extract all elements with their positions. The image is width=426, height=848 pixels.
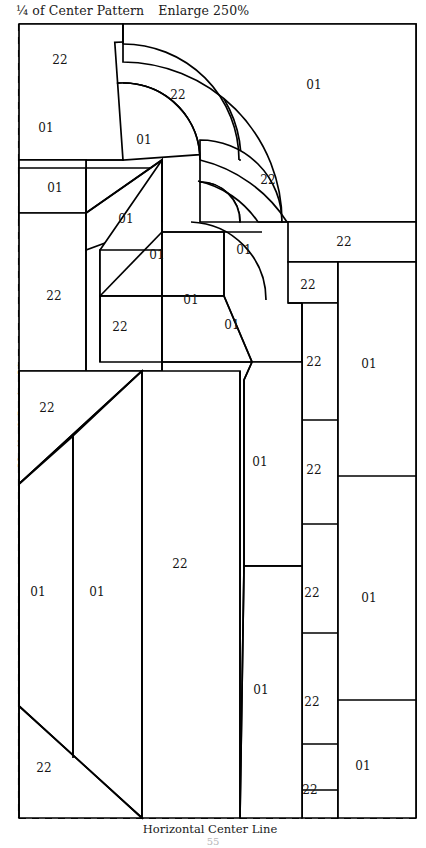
pattern-page: ¼ of Center PatternEnlarge 250% Vertical… xyxy=(0,0,426,848)
label-piece-p08: 22 xyxy=(260,173,275,187)
label-piece-p06: 01 xyxy=(136,133,151,147)
label-piece-p12: 22 xyxy=(112,320,127,334)
label-piece-p25: 01 xyxy=(252,455,267,469)
label-piece-p17: 22 xyxy=(306,355,321,369)
label-piece-p11: 01 xyxy=(183,293,198,307)
label-piece-p20: 22 xyxy=(304,695,319,709)
piece-01-big-strip-2 xyxy=(73,371,142,818)
label-piece-p04: 22 xyxy=(46,289,61,303)
piece-01-step-face-3 xyxy=(162,232,224,296)
piece-01-big-strip-1 xyxy=(19,436,73,758)
column-01-far-right xyxy=(338,262,416,818)
label-piece-p09: 01 xyxy=(118,212,133,226)
label-piece-p30: 22 xyxy=(172,557,187,571)
label-piece-p13: 01 xyxy=(224,318,239,332)
pattern-drawing: 22 01 01 22 22 01 01 22 01 01 01 22 01 0… xyxy=(0,0,426,848)
label-piece-p29: 01 xyxy=(89,585,104,599)
label-piece-p27: 22 xyxy=(39,401,54,415)
label-piece-p23: 01 xyxy=(361,591,376,605)
label-piece-p21: 22 xyxy=(302,783,317,797)
label-piece-p31: 22 xyxy=(36,761,51,775)
piece-01-center-right-lower xyxy=(240,566,302,818)
column-22-narrow xyxy=(302,303,338,818)
label-piece-p19: 22 xyxy=(304,586,319,600)
label-piece-p14: 01 xyxy=(236,243,251,257)
piece-22-big-strip-3 xyxy=(142,371,240,818)
label-piece-p24: 01 xyxy=(355,759,370,773)
label-piece-p01: 22 xyxy=(52,53,67,67)
label-piece-p15: 22 xyxy=(336,235,351,249)
label-piece-p16: 22 xyxy=(300,278,315,292)
label-piece-p03: 01 xyxy=(47,181,62,195)
label-piece-p10: 01 xyxy=(149,248,164,262)
label-piece-p22: 01 xyxy=(361,357,376,371)
label-piece-p26: 01 xyxy=(253,683,268,697)
label-piece-p05: 22 xyxy=(170,88,185,102)
piece-22-step-front xyxy=(100,296,162,362)
label-piece-p28: 01 xyxy=(30,585,45,599)
label-piece-p07: 01 xyxy=(306,78,321,92)
label-piece-p18: 22 xyxy=(306,463,321,477)
label-piece-p02: 01 xyxy=(38,121,53,135)
piece-22-top-left-upper xyxy=(19,24,123,160)
piece-22-right-band xyxy=(288,222,416,262)
